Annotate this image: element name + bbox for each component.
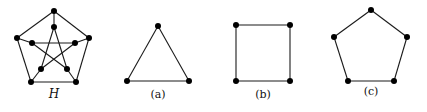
edge — [76, 38, 89, 82]
vertex — [404, 34, 410, 40]
edge — [17, 11, 54, 38]
pentagon-graph-c: (c) — [331, 7, 410, 98]
vertex — [38, 66, 44, 72]
vertex — [14, 35, 20, 41]
vertex — [29, 40, 35, 46]
vertex — [287, 22, 293, 28]
edge — [54, 27, 67, 69]
vertex — [233, 22, 239, 28]
square-graph-b: (b) — [233, 22, 293, 101]
graph-label: (c) — [364, 85, 379, 98]
graph-label: H — [48, 87, 60, 101]
vertex — [287, 78, 293, 84]
vertex — [233, 78, 239, 84]
vertex — [331, 34, 337, 40]
vertex — [51, 24, 57, 30]
vertex — [72, 40, 78, 46]
edge — [41, 27, 54, 69]
edge — [158, 26, 189, 81]
edge — [127, 26, 158, 81]
vertex — [124, 78, 130, 84]
edge — [54, 11, 89, 38]
vertex — [155, 23, 161, 29]
triangle-graph-a: (a) — [124, 23, 192, 101]
vertex — [64, 66, 70, 72]
graph-figure: H (a) (b) (c) — [0, 0, 427, 112]
edge — [41, 43, 75, 69]
edge — [32, 43, 67, 69]
vertex — [73, 79, 79, 85]
vertex — [368, 7, 374, 13]
vertex — [186, 78, 192, 84]
edge — [17, 38, 31, 82]
petersen-graph-h: H — [14, 8, 92, 101]
graph-label: (b) — [255, 88, 271, 101]
vertex — [86, 35, 92, 41]
edge — [334, 37, 348, 81]
edge — [394, 37, 407, 81]
vertex — [345, 78, 351, 84]
graph-label: (a) — [150, 88, 165, 101]
vertex — [51, 8, 57, 14]
edge — [371, 10, 407, 37]
vertex — [28, 79, 34, 85]
vertex — [391, 78, 397, 84]
edge — [334, 10, 371, 37]
